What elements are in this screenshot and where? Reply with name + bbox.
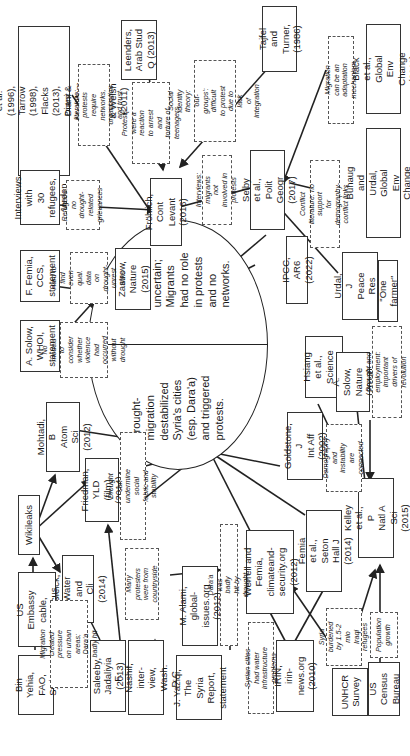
note-no-models: No models to consider whether violence h… [60,322,108,378]
note-hard-to-find-data: Hard to find even qual. data on drought-… [70,252,108,304]
source-frohlich: Fröhlich, Cont Levant (2016) [150,178,182,246]
note-population-growth: Population growth [370,612,398,658]
source-nashif: F. Nashif, inter- view, Wash. D.C. [128,640,164,715]
note-water-infrastructure: Syrian cities had water infrastructure p… [248,622,274,714]
source-ipcc-ar6: IPCC, AR6 (2022) [286,236,308,304]
note-many-protesters: Many protesters were from countryside [125,548,159,620]
source-black-et-al: Black et al., Global Env Change (2011) [366,24,401,114]
source-tajfel-turner: Tajfel and Turner, (1986) [262,6,297,72]
source-femia-seton-hall: Femia et al., Seton Hall J (2014) [306,510,342,592]
source-werrell-femia: Werrell and Femia, climateand- security.… [246,530,294,614]
source-bin-yehia: Bin Yehia, FAO, Syria [18,655,54,715]
source-us-census-bureau: US Census Bureau [368,662,400,716]
source-unhcr-survey: UNHCR Survey [332,668,368,716]
note-iraqi-refugees: Syria burdened by 1.5-2 mio Iraqi refuge… [326,608,362,666]
note-social-fabric: Drought can undermine social fabric and … [120,432,146,540]
note-arrest-torture: Protests were a reaction to arrest and t… [132,82,170,164]
note-social-identity-theory: Social identity theory: 'out-groups': di… [194,60,236,142]
source-urdal: Urdal, J Peace Res (2005) [342,252,378,320]
source-irin: IRIN, irin- news.org (2010) [276,640,314,712]
source-kelley-et-al: Kelley et al., P Natl A Sci (2015) [358,478,394,558]
source-mohtadi: Mohtadi, B Atom Sci (2012) [46,402,80,472]
source-interviews-jordan: Interviews with 30 refugees, Jordan [20,170,60,225]
note-interviews-migrants: Interviews: migrants not involved in pro… [202,155,232,225]
source-buhaug-urdal: Buhaug and Urdal, Global Env Change (201… [366,128,401,238]
source-leenders: Leenders, Arab Stud Q (2013) [121,20,157,80]
note-adaptation-mechanism: Migration can be an adaptation mechanism [328,36,354,124]
note-daraa-hit-by-drought: Dara'a was badly hit by drought [220,524,238,646]
left-claim-text: Drought- migration destabilized Syria's … [130,376,226,441]
note-drought-employment: Drought and employment: important driver… [372,326,402,418]
note-demography-instability: Demography and instability are connected [326,424,362,492]
source-goldstone: Goldstone, J Int Aff (2002) [287,412,323,480]
note-protest-literature: Protest literature: protests require net… [78,64,110,146]
source-selby-et-al: Selby et al., Polit Geogr (2017) [250,150,285,230]
source-yaziqi: J. Yaziqi, The Syria Report, statement [176,655,222,720]
note-migration-pressure: Migration created pressure on urban area… [50,600,88,688]
source-one-farmer: "One farmer" [378,260,398,322]
argument-map-diagram: Migration- protest link uncertain; Migra… [0,0,410,756]
source-wikileaks: Wikileaks [18,495,40,555]
note-conflict-literature: Conflict literature: no support for demo… [310,160,340,248]
note-refugees-no-grievances: Refugees: no drought-related grievances [66,180,100,230]
